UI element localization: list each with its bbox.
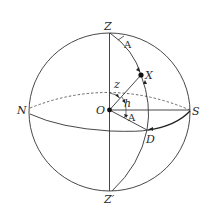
label-altitude: h [124, 97, 131, 110]
label-north: N [16, 104, 27, 117]
diagram-canvas: Z Z′ O N S X D A A z h [0, 0, 210, 211]
star-point [138, 72, 143, 77]
arrow-x-upper [136, 67, 140, 72]
horizon-back-dashed [30, 92, 190, 110]
observer-point [107, 108, 112, 113]
label-azimuth-top: A [123, 39, 132, 50]
label-zenith-distance: z [113, 78, 120, 91]
label-horizon-foot: D [145, 133, 155, 146]
label-zenith: Z [103, 20, 112, 33]
horizon-front-d-to-s [148, 111, 190, 130]
celestial-sphere-diagram: Z Z′ O N S X D A A z h [0, 0, 210, 211]
label-south: S [192, 105, 200, 118]
label-observer: O [96, 104, 105, 117]
label-azimuth-bottom: A [127, 112, 136, 123]
label-star: X [144, 69, 154, 82]
label-nadir: Z′ [103, 193, 115, 206]
